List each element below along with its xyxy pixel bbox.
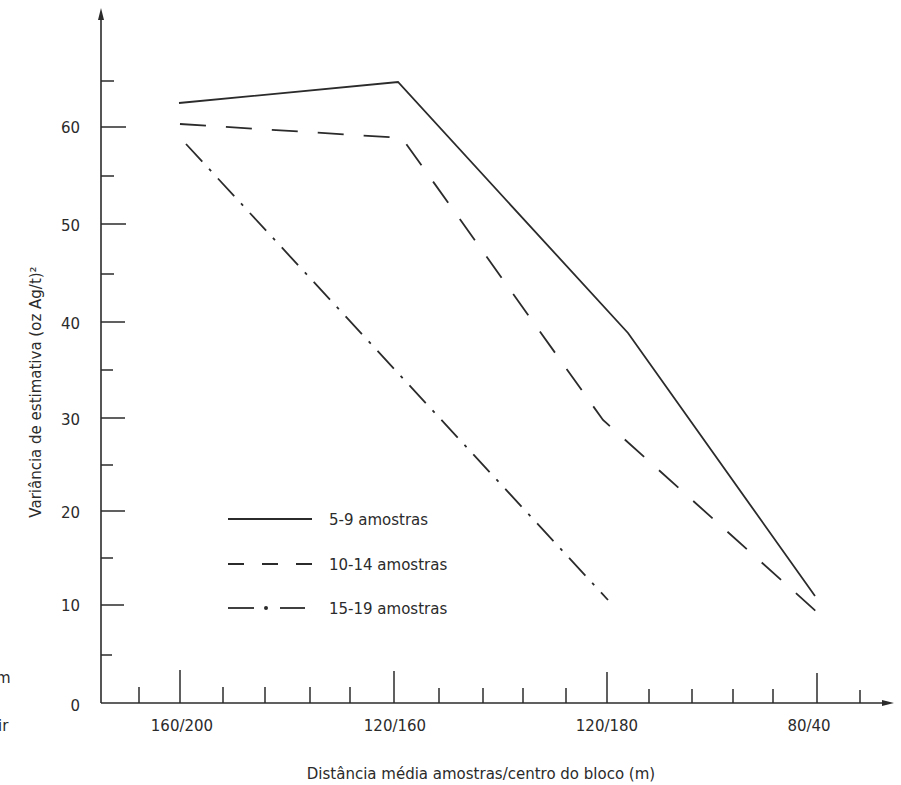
margin-fragment-1: m: [0, 669, 11, 687]
x-label-160-200: 160/200: [151, 717, 213, 735]
y-label-40: 40: [61, 315, 80, 333]
x-label-120-180: 120/180: [576, 717, 638, 735]
y-label-60: 60: [61, 119, 80, 137]
legend-swatch-dashdot-dot: [264, 606, 268, 610]
x-axis-title: Distância média amostras/centro do bloco…: [307, 765, 655, 783]
x-label-120-160: 120/160: [364, 717, 426, 735]
y-axis-title: Variância de estimativa (oz Ag/t)²: [27, 266, 45, 517]
legend: 5-9 amostras 10-14 amostras 15-19 amostr…: [228, 511, 447, 618]
legend-label-15-19: 15-19 amostras: [329, 600, 447, 618]
series-10-14-amostras: [180, 124, 818, 613]
chart-canvas: 0 10 20 30 40 50 60 160/200 120/160 120/…: [0, 0, 901, 785]
x-tick-labels: 160/200 120/160 120/180 80/40: [151, 717, 831, 735]
x-ticks: [139, 670, 860, 703]
y-label-50: 50: [61, 217, 80, 235]
legend-label-10-14: 10-14 amostras: [329, 556, 447, 574]
x-axis-arrow-icon: [882, 700, 894, 706]
y-label-0: 0: [70, 697, 80, 715]
y-label-10: 10: [61, 597, 80, 615]
legend-label-5-9: 5-9 amostras: [329, 511, 428, 529]
x-label-80-40: 80/40: [787, 717, 830, 735]
y-axis-arrow-icon: [98, 8, 104, 20]
series-15-19-amostras: [186, 144, 608, 600]
y-label-30: 30: [61, 411, 80, 429]
y-ticks: [101, 81, 126, 655]
y-label-20: 20: [61, 504, 80, 522]
y-tick-labels: 0 10 20 30 40 50 60: [61, 119, 80, 715]
margin-fragment-2: ir: [0, 717, 9, 735]
